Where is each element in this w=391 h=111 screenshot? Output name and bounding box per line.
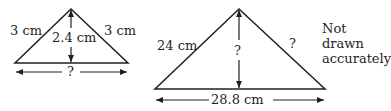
- large-left-side-label: 24 cm: [157, 39, 197, 53]
- large-right-side-label: ?: [289, 37, 296, 51]
- note-line-2: accurately: [322, 51, 391, 66]
- small-height-label: 2.4 cm: [52, 31, 96, 45]
- not-drawn-accurately-note: Not drawn accurately: [322, 21, 391, 66]
- large-height-label: ?: [234, 44, 241, 58]
- note-line-1: Not drawn: [322, 21, 391, 51]
- similar-triangles-diagram: 3 cm 3 cm 2.4 cm ? 24 cm ? ? 28.8 cm Not…: [0, 0, 391, 111]
- small-right-side-label: 3 cm: [104, 24, 136, 38]
- small-base-label: ?: [67, 65, 74, 79]
- large-base-label: 28.8 cm: [211, 93, 264, 107]
- small-left-side-label: 3 cm: [10, 24, 42, 38]
